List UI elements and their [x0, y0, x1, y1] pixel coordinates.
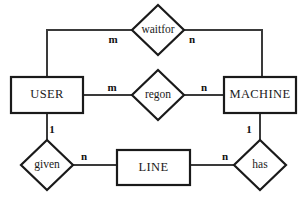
cardinality-regon-machine: n [201, 81, 207, 93]
cardinality-regon-user: m [107, 81, 116, 93]
relationship-has[interactable]: has [234, 140, 286, 190]
relationship-given[interactable]: given [21, 140, 73, 190]
relationship-regon[interactable]: regon [132, 70, 184, 120]
er-diagram-canvas: USER MACHINE LINE waitfor regon given [0, 0, 304, 198]
connector-user-waitfor [47, 30, 132, 77]
cardinality-given-user: 1 [49, 123, 55, 135]
cardinality-waitfor-user: m [108, 33, 117, 45]
relationship-waitfor-label: waitfor [141, 23, 174, 35]
cardinality-given-line: n [81, 150, 87, 162]
connector-waitfor-machine [184, 30, 262, 77]
relationship-given-label: given [34, 158, 60, 171]
entity-machine-label: MACHINE [229, 87, 290, 101]
er-diagram-svg: USER MACHINE LINE waitfor regon given [0, 0, 304, 198]
cardinality-has-line: n [222, 150, 228, 162]
relationship-has-label: has [252, 158, 268, 170]
relationship-regon-label: regon [145, 88, 171, 101]
entity-line[interactable]: LINE [117, 150, 190, 185]
relationship-waitfor[interactable]: waitfor [132, 5, 184, 55]
entity-user-label: USER [30, 87, 64, 101]
cardinality-has-machine: 1 [246, 123, 252, 135]
cardinality-waitfor-machine: n [189, 33, 195, 45]
entity-user[interactable]: USER [11, 77, 83, 113]
entity-machine[interactable]: MACHINE [224, 77, 296, 113]
entity-line-label: LINE [138, 160, 168, 174]
